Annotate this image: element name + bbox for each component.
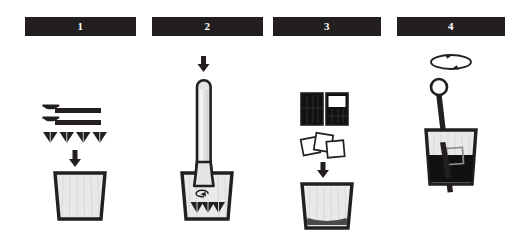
- step-number-2: 2: [205, 21, 211, 32]
- ice-cube-icon: [326, 140, 344, 157]
- step-number-1: 1: [78, 21, 84, 32]
- step-header-3: 3: [273, 17, 381, 36]
- infographic-board: 1 2 3 4: [0, 0, 528, 241]
- bar-spoon-icon: [42, 117, 101, 125]
- down-arrow-icon: [69, 150, 81, 167]
- step-header-2: 2: [152, 17, 263, 36]
- step-number-3: 3: [324, 21, 330, 32]
- rotate-arrow-icon: [431, 55, 471, 70]
- glass-with-base-icon: [302, 184, 352, 228]
- step-header-1: 1: [25, 17, 136, 36]
- step-illustration-3: [273, 42, 381, 232]
- measure-partial-icon: [326, 93, 348, 125]
- empty-glass-icon: [55, 173, 105, 219]
- bar-spoon-icon: [42, 105, 101, 113]
- step-number-4: 4: [448, 21, 454, 32]
- step-illustration-2: [152, 42, 263, 232]
- step-header-4: 4: [397, 17, 505, 36]
- down-arrow-icon: [317, 162, 329, 178]
- measure-full-icon: [301, 93, 323, 125]
- muddler-tip-icon: [194, 162, 213, 186]
- step-illustration-4: [397, 42, 505, 232]
- step-illustration-1: [25, 42, 136, 232]
- mint-leaf-icon: [93, 132, 108, 143]
- mint-leaf-icon: [76, 132, 91, 143]
- down-arrow-icon: [198, 56, 210, 72]
- mint-leaf-icon: [43, 132, 58, 143]
- mint-leaf-icon: [60, 132, 75, 143]
